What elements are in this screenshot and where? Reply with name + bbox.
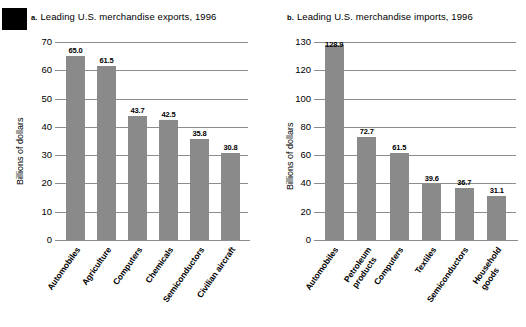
y-axis-tick: [314, 183, 321, 184]
bar: [325, 45, 344, 240]
y-axis-tick-label: 30: [41, 150, 52, 160]
y-axis-tick: [55, 127, 62, 128]
bar-value-label: 43.7: [130, 106, 144, 115]
bar: [487, 196, 506, 240]
y-axis-tick-label: 130: [295, 37, 311, 47]
y-axis-tick: [55, 240, 62, 241]
x-axis-category-line: Computers: [110, 245, 143, 287]
x-axis-category-line: Automobiles: [303, 245, 340, 292]
y-axis-tick-label: 20: [41, 179, 52, 189]
y-axis-tick-label: 50: [41, 94, 52, 104]
bar-value-label: 42.5: [161, 110, 175, 119]
y-axis-tick: [314, 240, 321, 241]
y-axis-title-imports: Billions of dollars: [285, 122, 295, 190]
bar-value-label: 72.7: [360, 127, 374, 136]
bar: [159, 120, 178, 240]
x-axis-category-line: Chemicals: [143, 245, 175, 285]
y-axis-tick-label: 40: [41, 122, 52, 132]
bar: [97, 66, 116, 240]
bar-value-label: 61.5: [392, 143, 406, 152]
y-axis-tick: [314, 99, 321, 100]
panel-letter-b: b.: [287, 13, 294, 22]
x-axis-category-text: Automobiles: [303, 245, 340, 292]
x-axis-category-text: Agriculture: [79, 245, 113, 287]
chart-panel-exports: a.Leading U.S. merchandise exports, 1996…: [0, 0, 263, 327]
y-axis-tick: [55, 42, 62, 43]
y-axis-tick: [55, 183, 62, 184]
gridline: [62, 127, 248, 128]
y-axis-tick-label: 20: [300, 207, 311, 217]
y-axis-tick-label: 60: [41, 66, 52, 76]
y-axis-tick-label: 10: [41, 207, 52, 217]
y-axis-tick: [55, 155, 62, 156]
y-axis-tick-label: 0: [306, 235, 311, 245]
x-axis-category-text: Automobiles: [45, 245, 82, 292]
gridline: [62, 99, 248, 100]
x-axis-category-line: Agriculture: [79, 245, 113, 287]
y-axis-tick: [55, 212, 62, 213]
y-axis-tick: [314, 42, 321, 43]
bar: [390, 153, 409, 240]
gridline: [321, 99, 516, 100]
y-axis-tick: [314, 155, 321, 156]
bar-value-label: 35.8: [192, 129, 206, 138]
bar-value-label: 61.5: [99, 56, 113, 65]
gridline: [321, 70, 516, 71]
y-axis-tick-label: 70: [41, 37, 52, 47]
bar: [357, 137, 376, 240]
gridline: [321, 155, 516, 156]
gridline: [321, 240, 516, 241]
gridline: [62, 240, 248, 241]
panel-title-exports: a.Leading U.S. merchandise exports, 1996: [31, 11, 216, 22]
gridline: [321, 127, 516, 128]
gridline: [321, 42, 516, 43]
y-axis-tick: [314, 212, 321, 213]
bar-value-label: 36.7: [457, 178, 471, 187]
x-axis-category-text: Chemicals: [143, 245, 175, 285]
y-axis-title-exports: Billions of dollars: [15, 117, 25, 185]
bar-value-label: 128.9: [325, 40, 343, 49]
y-axis-tick-label: 60: [300, 150, 311, 160]
x-axis-category-line: Textiles: [412, 245, 438, 276]
y-axis-tick-label: 0: [47, 235, 52, 245]
x-axis-category-text: Householdgoods: [470, 245, 511, 292]
plot-area-exports: 01020304050607065.0Automobiles61.5Agricu…: [62, 42, 248, 240]
bar: [128, 116, 147, 240]
x-axis-category-text: Computers: [110, 245, 143, 287]
bar: [66, 56, 85, 240]
y-axis-tick: [314, 70, 321, 71]
y-axis-tick: [55, 70, 62, 71]
bar-value-label: 39.6: [425, 174, 439, 183]
y-axis-tick-label: 40: [300, 179, 311, 189]
bar: [190, 139, 209, 240]
x-axis-category-text: Computers: [372, 245, 405, 287]
y-axis-tick-label: 100: [295, 94, 311, 104]
y-axis-tick-label: 120: [295, 66, 311, 76]
gridline: [62, 42, 248, 43]
panel-letter-a: a.: [31, 13, 37, 22]
y-axis-tick: [55, 99, 62, 100]
panel-title-imports: b.Leading U.S. merchandise imports, 1996: [287, 11, 473, 22]
bar-value-label: 65.0: [68, 46, 82, 55]
gridline: [321, 183, 516, 184]
y-axis-tick: [314, 127, 321, 128]
chart-panel-imports: b.Leading U.S. merchandise imports, 1996…: [263, 0, 526, 327]
plot-area-imports: 020406080100120130128.9Automobiles72.7Pe…: [321, 42, 516, 240]
bar-value-label: 31.1: [490, 186, 504, 195]
y-axis-tick-label: 80: [300, 122, 311, 132]
bar: [422, 184, 441, 240]
x-axis-category-line: Automobiles: [45, 245, 82, 292]
x-axis-category-line: Computers: [372, 245, 405, 287]
bar-value-label: 30.8: [223, 143, 237, 152]
bar: [221, 153, 240, 240]
panel-title-text-imports: Leading U.S. merchandise imports, 1996: [297, 11, 473, 22]
x-axis-category-text: Textiles: [412, 245, 438, 276]
panel-title-text-exports: Leading U.S. merchandise exports, 1996: [40, 11, 216, 22]
bar: [455, 188, 474, 240]
gridline: [62, 70, 248, 71]
